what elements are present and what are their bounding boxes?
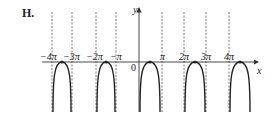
x-axis-label: x (256, 65, 262, 76)
svg-text:π: π (160, 51, 166, 62)
svg-text:−2π: −2π (86, 51, 104, 62)
svg-text:−3π: −3π (63, 51, 81, 62)
svg-text:−π: −π (110, 51, 123, 62)
graph-figure: H. y x 0 −4π −3π −2π −π π 2π 3π 4π (0, 0, 273, 118)
svg-text:4π: 4π (224, 51, 235, 62)
figure-label: H. (22, 6, 34, 20)
svg-text:3π: 3π (200, 51, 212, 62)
svg-text:−4π: −4π (40, 51, 58, 62)
svg-text:2π: 2π (179, 51, 190, 62)
origin-label: 0 (131, 62, 136, 73)
y-axis-label: y (132, 4, 138, 15)
cosecant-branches (53, 62, 250, 112)
tick-labels: −4π −3π −2π −π π 2π 3π 4π (40, 51, 235, 62)
